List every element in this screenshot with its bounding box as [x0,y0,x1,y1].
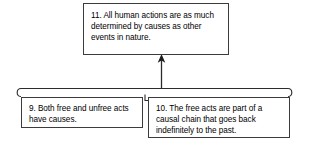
claim-box-premise-10: 10. The free acts are part of a causal c… [148,97,290,138]
premise-bracket [17,89,292,97]
claim-box-premise-9: 9. Both free and unfree acts have causes… [21,97,143,128]
claim-box-conclusion-11: 11. All human actions are as much determ… [83,3,229,55]
argument-diagram: 11. All human actions are as much determ… [0,0,315,151]
